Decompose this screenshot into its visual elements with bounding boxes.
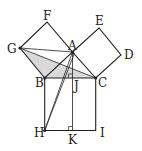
point-g (18, 46, 21, 49)
point-c (94, 76, 97, 79)
label-j: J (72, 79, 79, 93)
label-k: K (68, 133, 78, 147)
label-f: F (43, 9, 51, 23)
point-a (71, 50, 74, 53)
right-angle-k (69, 127, 73, 131)
label-i: I (100, 126, 105, 140)
pythagorean-diagram: FEGADBJCHKI (0, 0, 142, 151)
right-angle-marks (69, 74, 73, 131)
point-b (43, 76, 46, 79)
point-h (43, 129, 46, 132)
label-h: H (34, 126, 44, 140)
label-d: D (124, 48, 134, 62)
label-b: B (35, 76, 44, 90)
label-e: E (95, 14, 104, 28)
label-g: G (7, 42, 17, 56)
square-on-bc (45, 78, 96, 131)
square-on-ac (73, 28, 122, 78)
label-c: C (98, 76, 107, 90)
